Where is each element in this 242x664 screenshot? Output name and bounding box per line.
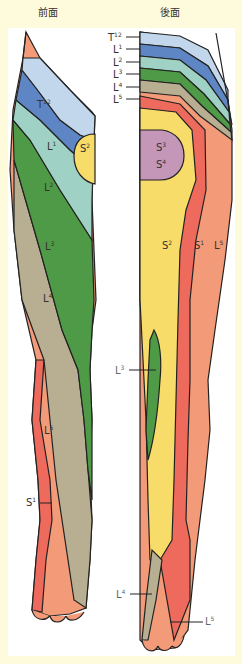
back-label-l5: L5 <box>113 93 123 105</box>
front-leg <box>10 32 96 622</box>
back-label-l1: L1 <box>113 43 123 55</box>
back-label-l3: L3 <box>113 68 123 80</box>
front-label-s1: S1 <box>26 496 36 508</box>
back-label-l3-knee: L3 <box>115 364 125 376</box>
dermatome-diagram: T12 L1 S2 L2 L3 L4 L5 S1 T12 L1 L2 L3 L4… <box>0 0 242 664</box>
back-leg <box>140 32 232 651</box>
back-label-l4-heel: L4 <box>116 588 126 600</box>
back-label-l5-foot: L5 <box>205 615 215 627</box>
back-label-l4: L4 <box>113 81 123 93</box>
back-label-l2: L2 <box>113 56 123 68</box>
back-label-t12: T12 <box>107 31 122 43</box>
